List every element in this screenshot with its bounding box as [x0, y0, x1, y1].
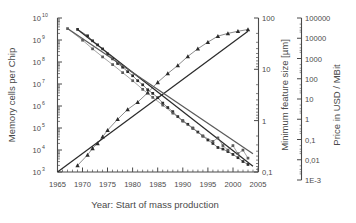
data-point [76, 28, 79, 31]
data-point [86, 34, 89, 37]
y-axis-right1-title: Minimum feature size [µm] [279, 39, 290, 151]
y-right1-tick-label-0: 100 [262, 14, 275, 23]
chart-svg: 10 3 10 4 10 5 10 6 10 7 10 8 10 9 10 10… [0, 0, 356, 223]
x-axis-tick-labels: 1965 1970 1975 1980 1985 1990 1995 2000 … [49, 180, 266, 189]
y-right2-tick-label-8: 1E-3 [305, 176, 321, 185]
data-point [232, 144, 235, 147]
data-point [91, 47, 94, 50]
y-right2-tick-label-7: 0,01 [305, 156, 320, 165]
data-point [202, 135, 205, 138]
data-point [237, 152, 240, 155]
data-point [146, 88, 149, 91]
y-left-tick-exp-0: 3 [42, 166, 45, 172]
data-point [227, 149, 230, 152]
y-right2-tick-label-1: 10000 [305, 34, 326, 43]
figure-container: 10 3 10 4 10 5 10 6 10 7 10 8 10 9 10 10… [0, 0, 356, 223]
y-right2-tick-label-4: 10 [305, 95, 313, 104]
data-point [237, 156, 240, 159]
data-point [217, 137, 220, 140]
x-tick-label-3: 1980 [124, 180, 141, 189]
y-left-tick-base-5: 10 [33, 58, 41, 67]
y-left-tick-exp-5: 8 [42, 56, 45, 62]
data-point [101, 56, 104, 59]
y-left-tick-base-2: 10 [33, 124, 41, 133]
y-left-tick-exp-3: 6 [42, 100, 45, 106]
y-left-tick-base-7: 10 [33, 14, 41, 23]
y-left-tick-base-4: 10 [33, 80, 41, 89]
data-point [232, 153, 235, 156]
chart-background [0, 0, 356, 223]
data-point [181, 120, 184, 123]
data-point [81, 39, 84, 42]
y-left-tick-base-6: 10 [33, 36, 41, 45]
data-point [242, 149, 245, 152]
y-left-tick-exp-2: 5 [42, 122, 45, 128]
y-left-tick-exp-1: 4 [42, 144, 45, 150]
x-tick-label-7: 2000 [225, 180, 242, 189]
data-point [212, 140, 215, 143]
x-tick-label-6: 1995 [199, 180, 216, 189]
data-point [131, 74, 134, 77]
data-point [91, 39, 94, 42]
y-left-tick-exp-7: 10 [42, 12, 48, 18]
data-point [101, 48, 104, 51]
data-point [222, 148, 225, 151]
data-point [131, 79, 134, 82]
y-right2-tick-label-5: 1 [305, 115, 309, 124]
y-right1-tick-label-1: 10 [262, 65, 270, 74]
data-point [121, 71, 124, 74]
y-left-tick-base-1: 10 [33, 146, 41, 155]
y-right1-tick-label-3: 0,1 [262, 168, 273, 177]
x-tick-label-0: 1965 [49, 180, 66, 189]
x-tick-label-8: 2005 [250, 180, 267, 189]
y-left-tick-exp-6: 9 [42, 34, 45, 40]
x-tick-label-2: 1975 [99, 180, 116, 189]
data-point [156, 96, 159, 99]
y-right2-tick-label-2: 1000 [305, 55, 322, 64]
data-point [151, 96, 154, 99]
data-point [171, 112, 174, 115]
y-left-tick-base-3: 10 [33, 102, 41, 111]
x-tick-label-1: 1970 [74, 180, 91, 189]
y-axis-left-title: Memory cells per Chip [6, 48, 17, 143]
data-point [247, 163, 250, 166]
y-right1-tick-label-2: 1 [262, 117, 266, 126]
x-tick-label-4: 1985 [149, 180, 166, 189]
y-left-tick-base-0: 10 [33, 168, 41, 177]
data-point [217, 146, 220, 149]
x-axis-title: Year: Start of mass production [91, 199, 218, 210]
data-point [247, 157, 250, 160]
data-point [66, 27, 69, 30]
x-tick-label-5: 1990 [174, 180, 191, 189]
y-right2-tick-label-3: 100 [305, 75, 318, 84]
data-point [141, 83, 144, 86]
data-point [111, 63, 114, 66]
y-right2-tick-label-0: 100000 [305, 14, 330, 23]
data-point [191, 127, 194, 130]
data-point [242, 160, 245, 163]
data-point [161, 104, 164, 107]
data-point [141, 88, 144, 91]
data-point [126, 70, 129, 73]
y-left-tick-exp-4: 7 [42, 78, 45, 84]
y-axis-right2-title: Price in USD / MBit [331, 64, 342, 146]
data-point [96, 43, 99, 46]
data-point [136, 79, 139, 82]
data-point [151, 92, 154, 95]
y-right2-tick-label-6: 0,1 [305, 136, 316, 145]
data-point [222, 144, 225, 147]
